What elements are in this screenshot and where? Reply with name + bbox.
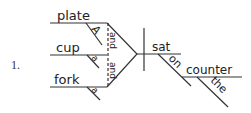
word-on: on bbox=[166, 52, 185, 71]
word-cup: cup bbox=[56, 40, 80, 55]
word-plate: plate bbox=[57, 8, 90, 23]
word-sat: sat bbox=[152, 40, 171, 54]
word-and-1: and bbox=[108, 32, 118, 49]
word-A: A bbox=[89, 23, 104, 37]
word-fork: fork bbox=[54, 72, 80, 87]
item-number: 1. bbox=[11, 58, 20, 72]
word-counter: counter bbox=[186, 63, 232, 77]
sentence-diagram: 1. plate A cup a fork a and and sat on c… bbox=[0, 0, 251, 113]
